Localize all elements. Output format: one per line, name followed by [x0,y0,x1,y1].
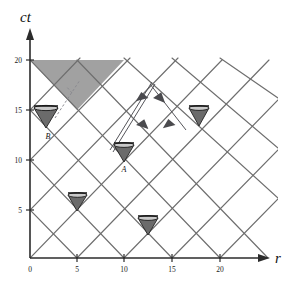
y-tick-label-20: 20 [15,56,23,65]
y-axis-arrow-icon [26,28,34,40]
y-tick-label-10: 10 [15,156,23,165]
ray-arrow-2-icon [153,90,168,103]
x-tick-label-20: 20 [216,265,224,274]
x-tick-label-10: 10 [120,265,128,274]
x-tick-label-15: 15 [168,265,176,274]
spacetime-diagram-figure: 20 15 10 5 0 5 10 15 20 ct r B A [0,0,298,283]
diagram-canvas: 20 15 10 5 0 5 10 15 20 ct r B A [0,0,298,283]
null-line-ur-4 [220,199,278,258]
null-line-ul-6 [172,58,278,148]
x-axis-label: r [275,250,281,266]
signal-rays [110,82,186,152]
y-tick-label-15: 15 [15,106,23,115]
light-cone-right [189,106,209,126]
x-axis-arrow-icon [258,254,270,262]
x-tick-label-0: 0 [28,265,32,274]
point-label-a: A [121,165,127,174]
ray-arrow-1-icon [134,91,148,101]
point-label-b: B [46,132,51,141]
ray-line-a-out-right [110,82,152,150]
light-cone-A [114,143,134,162]
null-line-ur-3 [172,150,278,258]
light-cone-B [34,105,58,128]
x-tick-label-5: 5 [75,265,79,274]
y-axis-label: ct [20,9,32,25]
null-line-ul-7 [220,58,278,98]
y-tick-label-5: 5 [18,206,22,215]
